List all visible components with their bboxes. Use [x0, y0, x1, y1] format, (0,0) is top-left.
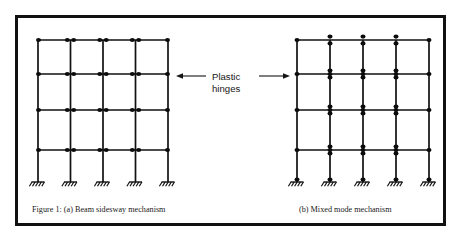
plastic-hinge-dot: [328, 177, 333, 181]
plastic-hinge-dot: [427, 38, 432, 42]
plastic-hinge-dot: [104, 108, 109, 112]
fixed-support-icon: [387, 182, 402, 186]
caption-left: Figure 1: (a) Beam sidesway mechanism: [32, 205, 166, 214]
plastic-hinge-dot: [394, 41, 399, 45]
plastic-hinge-dot: [328, 108, 333, 112]
right-frame: [288, 35, 435, 187]
plastic-hinge-dot: [427, 148, 432, 152]
support-hatch: [29, 182, 32, 186]
arrow-pointing-right-icon: [259, 73, 290, 79]
plastic-hinge-dot: [136, 148, 141, 152]
plastic-hinge-dot: [394, 72, 399, 76]
annotation-line-1: Plastic: [212, 71, 240, 82]
fixed-support-icon: [62, 182, 77, 186]
plastic-hinge-dot: [136, 72, 141, 76]
fixed-support-icon: [354, 182, 369, 186]
plastic-hinge-dot: [295, 72, 300, 76]
fixed-support-icon: [321, 182, 336, 186]
plastic-hinge-dot: [97, 38, 102, 42]
plastic-hinge-dot: [295, 38, 300, 42]
caption-right: (b) Mixed mode mechanism: [299, 205, 392, 214]
plastic-hinge-dot: [165, 108, 170, 112]
plastic-hinge-dot: [130, 38, 135, 42]
plastic-hinge-dot: [130, 148, 135, 152]
support-hatch: [354, 182, 357, 186]
plastic-hinge-dot: [130, 72, 135, 76]
plastic-hinge-dot: [36, 38, 41, 42]
plastic-hinge-dot: [394, 35, 399, 39]
fixed-support-icon: [94, 182, 109, 186]
plastic-hinge-dot: [427, 108, 432, 112]
figure-border: [17, 17, 445, 225]
plastic-hinge-dot: [295, 148, 300, 152]
annotation-line-2: hinges: [212, 83, 240, 94]
fixed-support-icon: [127, 182, 142, 186]
plastic-hinge-dot: [97, 148, 102, 152]
plastic-hinge-dot: [394, 108, 399, 112]
plastic-hinge-dot: [328, 35, 333, 39]
plastic-hinge-dot: [295, 177, 300, 181]
plastic-hinge-dot: [71, 148, 76, 152]
plastic-hinge-dot: [361, 41, 366, 45]
plastic-hinge-dot: [136, 108, 141, 112]
plastic-hinge-dot: [427, 72, 432, 76]
support-hatch: [387, 182, 390, 186]
plastic-hinge-dot: [97, 72, 102, 76]
support-hatch: [321, 182, 324, 186]
plastic-hinge-dot: [361, 108, 366, 112]
plastic-hinge-dot: [394, 177, 399, 181]
support-hatch: [127, 182, 130, 186]
plastic-hinge-dot: [328, 148, 333, 152]
plastic-hinge-dot: [361, 72, 366, 76]
fixed-support-icon: [288, 182, 303, 186]
plastic-hinge-dot: [97, 108, 102, 112]
plastic-hinge-dot: [165, 72, 170, 76]
plastic-hinge-dot: [65, 72, 70, 76]
plastic-hinge-dot: [328, 41, 333, 45]
plastic-hinge-dot: [71, 38, 76, 42]
plastic-hinge-dot: [328, 72, 333, 76]
plastic-hinge-dot: [104, 148, 109, 152]
plastic-hinge-dot: [361, 177, 366, 181]
plastic-hinge-dot: [36, 148, 41, 152]
figure-container: Plastic hinges Figure 1: (a) Beam sidesw…: [0, 0, 461, 241]
plastic-hinge-dot: [130, 108, 135, 112]
support-hatch: [94, 182, 97, 186]
plastic-hinge-dot: [361, 35, 366, 39]
fixed-support-icon: [420, 182, 435, 186]
plastic-hinge-dot: [71, 108, 76, 112]
plastic-hinge-dot: [295, 108, 300, 112]
plastic-hinge-dot: [36, 108, 41, 112]
plastic-hinge-dot: [361, 148, 366, 152]
plastic-hinge-dot: [136, 38, 141, 42]
plastic-hinge-dot: [104, 38, 109, 42]
support-hatch: [62, 182, 65, 186]
plastic-hinge-dot: [165, 148, 170, 152]
arrow-pointing-left-icon: [176, 73, 206, 79]
plastic-hinge-dot: [104, 72, 109, 76]
plastic-hinges-annotation: Plastic hinges: [176, 71, 290, 95]
plastic-hinge-dot: [65, 108, 70, 112]
support-hatch: [420, 182, 423, 186]
fixed-support-icon: [29, 182, 44, 186]
plastic-hinge-dot: [394, 148, 399, 152]
plastic-hinge-dot: [36, 72, 41, 76]
plastic-hinge-dot: [165, 38, 170, 42]
plastic-hinge-dot: [71, 72, 76, 76]
left-frame: [29, 38, 174, 186]
fixed-support-icon: [159, 182, 174, 186]
plastic-hinge-dot: [65, 148, 70, 152]
plastic-hinge-dot: [65, 38, 70, 42]
figure-drawing: Plastic hinges Figure 1: (a) Beam sidesw…: [0, 0, 461, 241]
plastic-hinge-dot: [427, 177, 432, 181]
support-hatch: [159, 182, 162, 186]
support-hatch: [288, 182, 291, 186]
